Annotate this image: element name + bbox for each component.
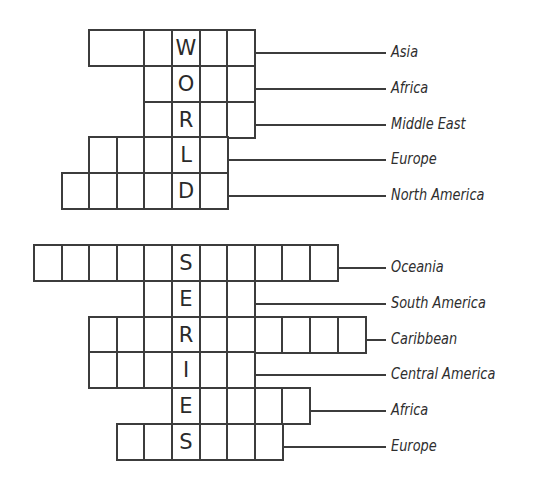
answer-cell[interactable] bbox=[281, 387, 311, 425]
answer-cell[interactable] bbox=[116, 351, 146, 389]
key-letter-cell: S bbox=[171, 423, 201, 461]
answer-cell[interactable] bbox=[88, 172, 118, 210]
answer-cell[interactable] bbox=[143, 172, 173, 210]
connector-line bbox=[255, 374, 386, 376]
clue-label: Africa bbox=[391, 79, 428, 97]
answer-cell[interactable] bbox=[254, 423, 284, 461]
answer-cell[interactable] bbox=[143, 136, 173, 174]
clue-label: South America bbox=[391, 294, 486, 312]
clue-label: Africa bbox=[391, 401, 428, 419]
clue-label: Oceania bbox=[391, 258, 444, 276]
answer-cell[interactable] bbox=[199, 316, 229, 354]
key-letter-cell: E bbox=[171, 280, 201, 318]
answer-cell[interactable] bbox=[199, 244, 229, 282]
answer-cell[interactable] bbox=[116, 316, 146, 354]
connector-line bbox=[255, 52, 386, 54]
answer-cell[interactable] bbox=[116, 423, 146, 461]
answer-cell[interactable] bbox=[143, 101, 173, 139]
key-letter-cell: L bbox=[171, 136, 201, 174]
answer-cell[interactable] bbox=[226, 65, 256, 103]
connector-line bbox=[365, 339, 386, 341]
connector-line bbox=[227, 159, 386, 161]
answer-cell[interactable] bbox=[337, 316, 367, 354]
answer-cell[interactable] bbox=[61, 244, 91, 282]
answer-cell[interactable] bbox=[143, 423, 173, 461]
answer-cell[interactable] bbox=[226, 316, 256, 354]
clue-label: Caribbean bbox=[391, 330, 457, 348]
connector-line bbox=[255, 303, 386, 305]
key-letter-cell: E bbox=[171, 387, 201, 425]
answer-cell[interactable] bbox=[226, 244, 256, 282]
answer-cell[interactable] bbox=[199, 136, 229, 174]
answer-cell[interactable] bbox=[226, 351, 256, 389]
connector-line bbox=[310, 410, 386, 412]
answer-cell[interactable] bbox=[199, 101, 229, 139]
answer-cell[interactable] bbox=[88, 136, 118, 174]
answer-cell[interactable] bbox=[254, 244, 284, 282]
connector-line bbox=[255, 88, 386, 90]
answer-cell[interactable] bbox=[88, 244, 118, 282]
connector-line bbox=[227, 195, 386, 197]
key-letter-cell: R bbox=[171, 316, 201, 354]
answer-cell[interactable] bbox=[143, 351, 173, 389]
answer-cell[interactable] bbox=[309, 316, 339, 354]
clue-label: Europe bbox=[391, 437, 437, 455]
answer-cell[interactable] bbox=[88, 351, 118, 389]
answer-cell[interactable] bbox=[199, 172, 229, 210]
answer-cell[interactable] bbox=[143, 29, 173, 67]
answer-cell[interactable] bbox=[143, 244, 173, 282]
answer-cell[interactable] bbox=[309, 244, 339, 282]
answer-cell[interactable] bbox=[281, 316, 311, 354]
key-letter-cell: D bbox=[171, 172, 201, 210]
answer-cell[interactable] bbox=[226, 423, 256, 461]
answer-cell[interactable] bbox=[199, 423, 229, 461]
answer-cell[interactable] bbox=[226, 29, 256, 67]
connector-line bbox=[282, 446, 386, 448]
clue-label: Middle East bbox=[391, 115, 466, 133]
key-letter-cell: W bbox=[171, 29, 201, 67]
answer-cell[interactable] bbox=[143, 65, 173, 103]
key-letter-cell: I bbox=[171, 351, 201, 389]
answer-cell[interactable] bbox=[226, 387, 256, 425]
answer-cell[interactable] bbox=[281, 244, 311, 282]
clue-label: Central America bbox=[391, 365, 495, 383]
key-letter-cell: S bbox=[171, 244, 201, 282]
answer-cell[interactable] bbox=[116, 172, 146, 210]
answer-cell[interactable] bbox=[143, 280, 173, 318]
answer-cell[interactable] bbox=[254, 387, 284, 425]
answer-cell[interactable] bbox=[199, 65, 229, 103]
clue-label: North America bbox=[391, 186, 484, 204]
answer-cell[interactable] bbox=[33, 244, 63, 282]
answer-cell[interactable] bbox=[61, 172, 91, 210]
answer-cell[interactable] bbox=[199, 387, 229, 425]
answer-cell[interactable] bbox=[199, 280, 229, 318]
answer-cell[interactable] bbox=[88, 316, 118, 354]
answer-cell[interactable] bbox=[143, 316, 173, 354]
key-letter-cell: O bbox=[171, 65, 201, 103]
answer-cell[interactable] bbox=[226, 101, 256, 139]
key-letter-cell: R bbox=[171, 101, 201, 139]
answer-cell[interactable] bbox=[116, 136, 146, 174]
answer-cell[interactable] bbox=[116, 244, 146, 282]
connector-line bbox=[255, 124, 386, 126]
answer-cell[interactable] bbox=[226, 280, 256, 318]
answer-cell[interactable] bbox=[199, 351, 229, 389]
answer-cell[interactable] bbox=[199, 29, 229, 67]
clue-label: Europe bbox=[391, 150, 437, 168]
clue-label: Asia bbox=[391, 43, 418, 61]
answer-cell[interactable] bbox=[254, 316, 284, 354]
answer-cell[interactable] bbox=[88, 29, 145, 67]
connector-line bbox=[338, 267, 386, 269]
